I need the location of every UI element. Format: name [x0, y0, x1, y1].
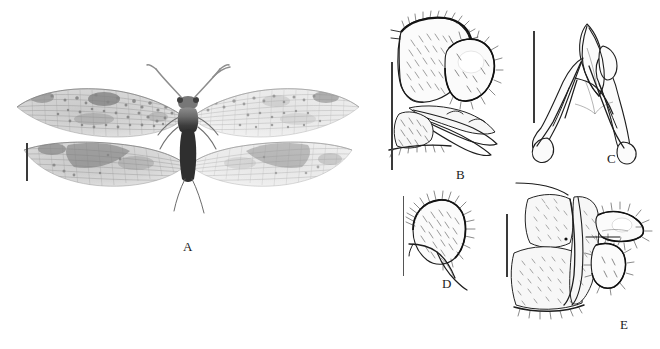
forewing-left	[16, 89, 186, 137]
panel-label-d: D	[442, 277, 452, 290]
panel-label-b: B	[456, 168, 465, 181]
scale-bar-a	[26, 143, 28, 181]
forewing-right	[190, 89, 360, 137]
scale-bar-c	[533, 31, 535, 123]
figure-plate: A	[0, 0, 660, 349]
panel-label-c: C	[607, 152, 616, 165]
antennae	[147, 65, 230, 97]
panel-b: B	[385, 10, 510, 190]
panel-a: A	[0, 0, 380, 260]
insect-body	[147, 65, 230, 213]
panel-b-drawing	[385, 10, 510, 190]
panel-label-a: A	[183, 240, 193, 253]
panel-label-e: E	[620, 318, 628, 331]
panel-e: E	[498, 175, 660, 345]
hindwing-right	[190, 141, 352, 186]
panel-e-drawing	[498, 175, 660, 345]
panel-c: C	[525, 18, 650, 178]
habitus-image	[8, 55, 368, 230]
panel-c-drawing	[525, 18, 650, 178]
scale-bar-d	[403, 196, 404, 276]
scale-bar-b	[391, 62, 393, 170]
hindwing-left	[24, 141, 186, 186]
scale-bar-e	[506, 214, 508, 277]
panel-d: D	[395, 188, 490, 298]
